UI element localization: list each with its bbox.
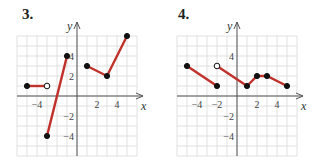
x-axis-label: x (300, 99, 307, 113)
y-tick-label: −2 (223, 111, 234, 122)
y-tick-label: −2 (63, 111, 74, 122)
closed-point (214, 83, 219, 88)
graph-4-panel: 4. xy−4−2244−2−4 (160, 0, 324, 166)
closed-point (184, 63, 189, 68)
y-tick-label: 4 (229, 51, 234, 62)
closed-point (124, 33, 129, 38)
x-tick-label: 4 (115, 99, 120, 110)
graph-3-plot: xy−42442−2−4 (0, 0, 164, 166)
open-point (214, 63, 220, 69)
x-tick-label: −4 (192, 99, 203, 110)
closed-point (284, 83, 289, 88)
closed-point (264, 73, 269, 78)
x-axis-label: x (140, 99, 147, 113)
closed-point (244, 83, 249, 88)
closed-point (104, 73, 109, 78)
y-tick-label: −4 (223, 131, 234, 142)
x-tick-label: −4 (32, 99, 43, 110)
x-tick-label: 2 (255, 99, 260, 110)
closed-point (64, 53, 69, 58)
x-tick-label: 2 (95, 99, 100, 110)
closed-point (44, 133, 49, 138)
x-tick-label: 4 (275, 99, 280, 110)
y-axis-label: y (226, 19, 233, 33)
graph-3-panel: 3. xy−42442−2−4 (0, 0, 164, 166)
y-axis-label: y (66, 19, 73, 33)
x-tick-label: −2 (212, 99, 223, 110)
y-tick-label: −4 (63, 131, 74, 142)
open-point (44, 83, 50, 89)
y-tick-label: 2 (69, 71, 74, 82)
graph-4-plot: xy−4−2244−2−4 (160, 0, 328, 166)
closed-point (24, 83, 29, 88)
closed-point (254, 73, 259, 78)
closed-point (84, 63, 89, 68)
